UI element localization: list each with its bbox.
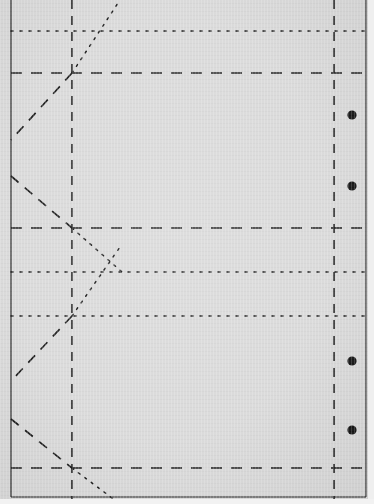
- sheet-background: [0, 0, 374, 504]
- punch-dot-3: [347, 356, 356, 365]
- line-drawing-canvas: [0, 0, 374, 504]
- punch-dot-2: [347, 181, 356, 190]
- punch-dot-4: [347, 425, 356, 434]
- drawing-sheet: [0, 0, 374, 504]
- punch-dot-1: [347, 110, 356, 119]
